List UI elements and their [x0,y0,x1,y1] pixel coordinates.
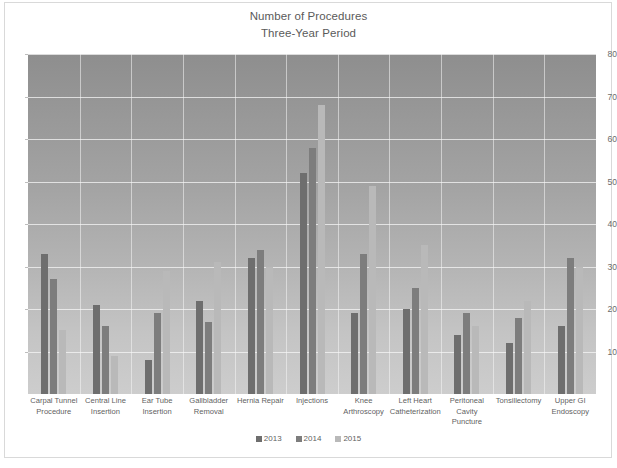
y-axis-tick-mark [25,267,28,268]
bar-2015-8 [472,326,479,394]
bar-2015-7 [421,245,428,394]
legend-label: 2013 [264,434,282,443]
legend-item-2014[interactable]: 2014 [296,434,322,443]
legend-item-2013[interactable]: 2013 [256,434,282,443]
bar-2014-0 [50,279,57,394]
x-axis-category-line: Knee [338,396,390,407]
bar-2014-7 [412,288,419,394]
x-axis-category-line: Hernia Repair [235,396,287,407]
x-axis-category-line: Upper GI [544,396,596,407]
x-axis-category-label: Ear TubeInsertion [131,396,183,417]
frame-border-right [611,2,612,458]
bar-2014-4 [257,250,264,395]
bar-2013-3 [196,301,203,395]
bar-2015-1 [111,356,118,394]
y-axis-tick-mark [25,139,28,140]
bar-2013-4 [248,258,255,394]
bar-2015-6 [369,186,376,394]
x-axis-category-line: Carpal Tunnel [28,396,80,407]
y-axis-tick-mark [25,182,28,183]
chart-subtitle: Three-Year Period [0,25,617,42]
gridline-vertical [338,54,339,394]
x-axis-category-line: Left Heart [389,396,441,407]
legend-label: 2014 [304,434,322,443]
legend-swatch-icon [296,436,302,442]
x-axis-category-line: Removal [183,407,235,418]
gridline-vertical [389,54,390,394]
y-axis [0,54,25,394]
bar-2013-1 [93,305,100,394]
x-axis-category-line: Endoscopy [544,407,596,418]
bar-2014-1 [102,326,109,394]
chart-title-block: Number of Procedures Three-Year Period [0,8,617,42]
bar-2014-8 [463,313,470,394]
x-axis-category-label: Hernia Repair [235,396,287,407]
y-axis-tick-mark [25,224,28,225]
gridline-vertical [183,54,184,394]
bar-2013-10 [558,326,565,394]
bar-2013-5 [300,173,307,394]
y-axis-tick-label: 60 [593,135,617,144]
x-axis-category-label: Upper GIEndoscopy [544,396,596,417]
x-axis-category-label: PeritonealCavity Puncture [441,396,493,428]
x-axis-category-line: Central Line [80,396,132,407]
bar-2014-3 [205,322,212,394]
x-axis-category-label: GallbladderRemoval [183,396,235,417]
y-axis-tick-label: 50 [593,178,617,187]
y-axis-tick-mark [25,352,28,353]
bar-2014-2 [154,313,161,394]
gridline-vertical [493,54,494,394]
y-axis-tick-mark [25,54,28,55]
gridline-horizontal [28,139,596,140]
x-axis-category-line: Tonsillectomy [493,396,545,407]
x-axis-category-line: Ear Tube [131,396,183,407]
x-axis-category-label: Tonsillectomy [493,396,545,407]
x-axis-category-line: Peritoneal [441,396,493,407]
x-axis: Carpal TunnelProcedureCentral LineInsert… [28,396,596,432]
x-axis-category-line: Insertion [131,407,183,418]
bar-2015-5 [318,105,325,394]
bar-2014-10 [567,258,574,394]
x-axis-category-line: Injections [286,396,338,407]
x-axis-category-label: Left HeartCatheterization [389,396,441,417]
gridline-vertical [235,54,236,394]
gridline-vertical [131,54,132,394]
gridline-horizontal [28,54,596,55]
legend-swatch-icon [256,436,262,442]
bar-2015-9 [524,301,531,395]
bar-2015-0 [59,330,66,394]
gridline-horizontal [28,97,596,98]
gridline-vertical [544,54,545,394]
plot-area [28,54,596,394]
frame-border-top [4,2,612,3]
chart-container: Number of Procedures Three-Year Period C… [0,0,617,468]
y-axis-tick-label: 20 [593,305,617,314]
y-axis-tick-mark [25,97,28,98]
x-axis-category-line: Procedure [28,407,80,418]
bar-2014-6 [360,254,367,394]
legend-swatch-icon [335,436,341,442]
bar-2013-6 [351,313,358,394]
x-axis-category-label: Carpal TunnelProcedure [28,396,80,417]
x-axis-category-line: Catheterization [389,407,441,418]
legend-item-2015[interactable]: 2015 [335,434,361,443]
bar-2013-2 [145,360,152,394]
bar-2014-5 [309,148,316,395]
gridline-vertical [286,54,287,394]
y-axis-tick-label: 40 [593,220,617,229]
bar-2013-8 [454,335,461,395]
gridline-vertical [80,54,81,394]
bar-2015-3 [214,262,221,394]
y-axis-tick-mark [25,309,28,310]
y-axis-tick-label: 30 [593,263,617,272]
bar-2013-7 [403,309,410,394]
y-axis-tick-label: 70 [593,93,617,102]
bar-2015-2 [163,271,170,394]
y-axis-tick-label: 80 [593,50,617,59]
x-axis-category-line: Arthroscopy [338,407,390,418]
x-axis-category-line: Insertion [80,407,132,418]
bar-2015-4 [266,267,273,395]
bar-2013-0 [41,254,48,394]
x-axis-category-label: Injections [286,396,338,407]
gridline-vertical [441,54,442,394]
